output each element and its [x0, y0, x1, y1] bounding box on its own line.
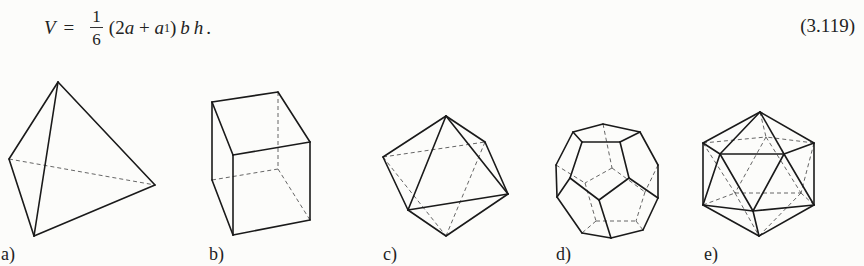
label-cube: b) [209, 244, 224, 265]
cube-drawing [212, 92, 310, 235]
platonic-solids-figure [0, 0, 864, 266]
label-octahedron: c) [383, 244, 397, 265]
octahedron-drawing [383, 116, 508, 236]
label-tetrahedron: a) [1, 244, 15, 265]
label-icosahedron: e) [704, 244, 718, 265]
icosahedron-drawing [703, 112, 814, 236]
label-dodecahedron: d) [556, 244, 571, 265]
dodecahedron-drawing [556, 124, 658, 238]
tetrahedron-drawing [9, 82, 155, 236]
